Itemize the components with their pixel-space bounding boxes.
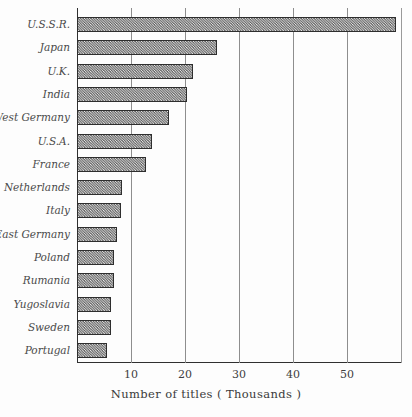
category-label: Poland: [0, 250, 70, 265]
category-label: Italy: [0, 203, 70, 218]
category-label: Japan: [0, 40, 70, 55]
x-tick-label: 10: [111, 368, 151, 381]
gridline-20: [185, 8, 186, 363]
x-tick-label: 20: [165, 368, 205, 381]
category-label: U.K.: [0, 64, 70, 79]
category-label: France: [0, 157, 70, 172]
category-label: East Germany: [0, 227, 70, 242]
gridline-50: [347, 8, 348, 363]
category-label: U.S.A.: [0, 134, 70, 149]
x-tick-label: 40: [273, 368, 313, 381]
bar-yugoslavia: [77, 297, 111, 312]
bar-italy: [77, 203, 121, 218]
category-label: Netherlands: [0, 180, 70, 195]
category-label: Yugoslavia: [0, 297, 70, 312]
plot-area: [77, 8, 402, 363]
bar-u-s-a: [77, 134, 152, 149]
x-tick-label: 30: [219, 368, 259, 381]
category-label: India: [0, 87, 70, 102]
bar-chart-figure: U.S.S.R.JapanU.K.IndiaWest GermanyU.S.A.…: [0, 0, 412, 417]
bar-netherlands: [77, 180, 122, 195]
bar-portugal: [77, 343, 107, 358]
bar-west-germany: [77, 110, 169, 125]
bar-east-germany: [77, 227, 117, 242]
gridline-30: [239, 8, 240, 363]
category-label: Portugal: [0, 343, 70, 358]
figure-caption: [0, 405, 412, 417]
bar-sweden: [77, 320, 111, 335]
category-label: Rumania: [0, 273, 70, 288]
bar-india: [77, 87, 187, 102]
category-label: West Germany: [0, 110, 70, 125]
category-label: U.S.S.R.: [0, 17, 70, 32]
category-label: Sweden: [0, 320, 70, 335]
gridline-40: [293, 8, 294, 363]
x-tick-label: 50: [327, 368, 367, 381]
bar-u-k: [77, 64, 193, 79]
bar-japan: [77, 40, 217, 55]
plot-right-border: [401, 8, 402, 363]
bar-rumania: [77, 273, 114, 288]
bar-u-s-s-r: [77, 17, 396, 32]
gridline-10: [131, 8, 132, 363]
bar-poland: [77, 250, 114, 265]
bar-france: [77, 157, 146, 172]
x-axis-title: Number of titles ( Thousands ): [0, 387, 412, 401]
